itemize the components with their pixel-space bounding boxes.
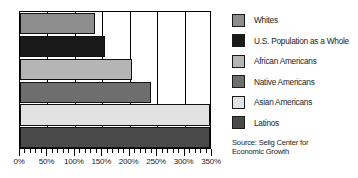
axis-tick-major: [129, 149, 130, 156]
bar-series: [20, 12, 210, 147]
axis-tick-minor: [30, 149, 31, 153]
x-axis-tick-label: 0%: [13, 157, 24, 166]
axis-tick-major: [46, 149, 47, 156]
axis-tick-minor: [145, 149, 146, 153]
axis-tick-minor: [173, 149, 174, 153]
x-axis-tick-label: 100%: [64, 157, 84, 166]
bar: [20, 13, 95, 34]
axis-tick-minor: [107, 149, 108, 153]
legend: WhitesU.S. Population as a WholeAfrican …: [232, 10, 358, 133]
axis-tick-major: [156, 149, 157, 156]
axis-tick-minor: [68, 149, 69, 153]
axis-tick-minor: [57, 149, 58, 153]
axis-tick-minor: [134, 149, 135, 153]
axis-tick-minor: [140, 149, 141, 153]
legend-item[interactable]: U.S. Population as a Whole: [232, 31, 358, 52]
legend-item[interactable]: Native Americans: [232, 72, 358, 93]
axis-tick-minor: [112, 149, 113, 153]
legend-swatch: [232, 34, 245, 47]
bar: [20, 59, 132, 80]
bar-chart-figure: 0%50%100%150%200%250%300%350% WhitesU.S.…: [0, 0, 358, 178]
axis-tick-minor: [85, 149, 86, 153]
axis-tick-minor: [151, 149, 152, 153]
axis-tick-minor: [35, 149, 36, 153]
bar: [20, 36, 105, 57]
axis-tick-minor: [52, 149, 53, 153]
axis-tick-major: [19, 149, 20, 156]
bar: [20, 104, 210, 125]
axis-tick-minor: [41, 149, 42, 153]
legend-item[interactable]: Asian Americans: [232, 92, 358, 113]
axis-tick-major: [101, 149, 102, 156]
legend-item-label: Native Americans: [254, 77, 315, 87]
x-axis-tick-label: 200%: [119, 157, 139, 166]
legend-item-label: African Americans: [254, 56, 317, 66]
legend-item[interactable]: African Americans: [232, 51, 358, 72]
plot-area: 0%50%100%150%200%250%300%350%: [0, 0, 222, 178]
axis-tick-minor: [162, 149, 163, 153]
axis-tick-minor: [79, 149, 80, 153]
source-note: Source: Selig Center for Economic Growth: [232, 139, 356, 156]
axis-tick-minor: [123, 149, 124, 153]
legend-swatch: [232, 75, 245, 88]
axis-tick-major: [211, 149, 212, 156]
axis-tick-minor: [200, 149, 201, 153]
x-axis-tick-label: 50%: [39, 157, 54, 166]
legend-swatch: [232, 96, 245, 109]
bar: [20, 82, 151, 103]
axis-tick-minor: [118, 149, 119, 153]
axis-tick-minor: [206, 149, 207, 153]
source-line-2: Economic Growth: [232, 148, 356, 157]
x-axis-tick-label: 350%: [201, 157, 221, 166]
axis-tick-minor: [90, 149, 91, 153]
x-axis-tick-label: 300%: [174, 157, 194, 166]
axis-tick-minor: [63, 149, 64, 153]
legend-item-label: U.S. Population as a Whole: [254, 36, 349, 46]
axis-tick-minor: [96, 149, 97, 153]
axis-tick-minor: [24, 149, 25, 153]
plot-frame: [19, 11, 211, 148]
axis-tick-major: [184, 149, 185, 156]
axis-tick-minor: [178, 149, 179, 153]
axis-tick-major: [74, 149, 75, 156]
legend-item-label: Asian Americans: [254, 97, 312, 107]
x-axis-line: [19, 148, 211, 149]
axis-tick-minor: [189, 149, 190, 153]
x-axis-tick-label: 150%: [91, 157, 111, 166]
x-axis-tick-label: 250%: [146, 157, 166, 166]
legend-swatch: [232, 55, 245, 68]
legend-item-label: Latinos: [254, 118, 279, 128]
legend-item[interactable]: Whites: [232, 10, 358, 31]
axis-tick-minor: [195, 149, 196, 153]
bar: [20, 127, 210, 148]
legend-item[interactable]: Latinos: [232, 113, 358, 134]
legend-swatch: [232, 116, 245, 129]
axis-tick-minor: [167, 149, 168, 153]
legend-swatch: [232, 14, 245, 27]
legend-item-label: Whites: [254, 15, 278, 25]
